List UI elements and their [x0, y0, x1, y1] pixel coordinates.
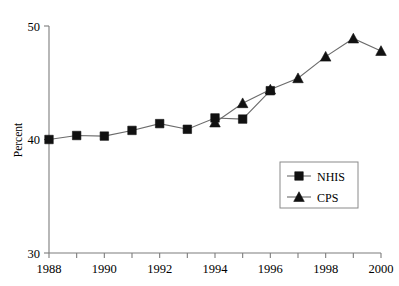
x-tick-label: 1988 [37, 262, 62, 276]
data-point-cps[interactable] [320, 51, 331, 61]
x-tick-label: 1992 [147, 262, 172, 276]
data-point-nhis[interactable] [183, 125, 192, 134]
data-point-cps[interactable] [376, 46, 387, 56]
data-point-cps[interactable] [237, 98, 248, 108]
chart-container: 504030 Percent 1988199019921994199619982… [0, 0, 399, 286]
x-tick-label: 1996 [258, 262, 283, 276]
chart-legend[interactable]: NHISCPS [280, 162, 358, 208]
data-point-cps[interactable] [348, 33, 359, 43]
y-tick-label: 50 [28, 20, 41, 34]
data-point-nhis[interactable] [100, 132, 109, 141]
x-tick-label: 1990 [92, 262, 117, 276]
chart-plot: 504030 Percent 1988199019921994199619982… [0, 0, 399, 286]
x-tick-label: 1998 [313, 262, 338, 276]
series-markers-group [45, 33, 387, 144]
data-point-nhis[interactable] [128, 126, 137, 135]
legend-label-cps: CPS [317, 191, 338, 205]
x-tick-label: 1994 [203, 262, 229, 276]
series-line-nhis [49, 91, 270, 140]
x-tick-label: 2000 [369, 262, 394, 276]
data-point-cps[interactable] [293, 73, 304, 83]
data-point-nhis[interactable] [238, 115, 247, 124]
y-tick-label: 40 [28, 133, 41, 147]
x-axis-ticks [49, 253, 381, 258]
x-axis-tick-labels: 1988199019921994199619982000 [37, 262, 394, 276]
legend-label-nhis: NHIS [317, 170, 345, 184]
legend-marker-nhis [295, 172, 304, 181]
data-point-nhis[interactable] [45, 135, 54, 144]
y-axis-title: Percent [12, 122, 24, 157]
x-axis: 1988199019921994199619982000 [37, 253, 394, 276]
y-axis-tick-labels: 504030 [28, 20, 41, 261]
y-tick-label: 30 [28, 247, 41, 261]
data-point-nhis[interactable] [155, 119, 164, 128]
y-axis: 504030 Percent [12, 20, 49, 261]
data-point-nhis[interactable] [72, 131, 81, 140]
